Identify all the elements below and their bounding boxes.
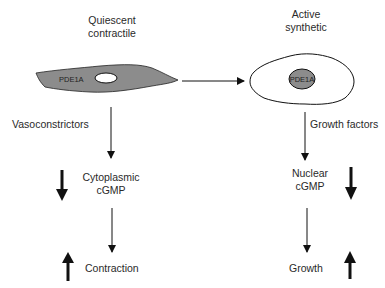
quiescent-title: Quiescent contractile bbox=[82, 14, 142, 40]
cytoplasmic-cgmp-decrease-icon bbox=[56, 170, 68, 201]
synthetic-title-line2: synthetic bbox=[276, 21, 336, 34]
contraction-label: Contraction bbox=[85, 262, 139, 275]
vasoconstrictors-label: Vasoconstrictors bbox=[12, 118, 89, 131]
growth-label: Growth bbox=[289, 262, 323, 275]
nuclear-cgmp-decrease-icon bbox=[345, 167, 357, 200]
quiescent-title-line2: contractile bbox=[82, 27, 142, 40]
growth-increase-icon bbox=[344, 251, 356, 279]
cytoplasmic-line1: Cytoplasmic bbox=[80, 171, 142, 184]
growth-factors-label: Growth factors bbox=[310, 118, 378, 131]
pde1a-label-left: PDE1A bbox=[59, 75, 84, 84]
cytoplasmic-line2: cGMP bbox=[80, 184, 142, 197]
quiescent-nucleus bbox=[95, 73, 117, 83]
pde1a-label-right: PDE1A bbox=[290, 75, 315, 84]
nuclear-cgmp-label: Nuclear cGMP bbox=[285, 167, 335, 193]
contraction-increase-icon bbox=[62, 252, 74, 281]
diagram-canvas: PDE1A PDE1A bbox=[0, 0, 385, 288]
synthetic-cell: PDE1A bbox=[250, 54, 354, 105]
nuclear-line2: cGMP bbox=[285, 180, 335, 193]
synthetic-title-line1: Active bbox=[276, 8, 336, 21]
synthetic-title: Active synthetic bbox=[276, 8, 336, 34]
quiescent-cell: PDE1A bbox=[36, 65, 178, 93]
cytoplasmic-cgmp-label: Cytoplasmic cGMP bbox=[80, 171, 142, 197]
nuclear-line1: Nuclear bbox=[285, 167, 335, 180]
quiescent-title-line1: Quiescent bbox=[82, 14, 142, 27]
